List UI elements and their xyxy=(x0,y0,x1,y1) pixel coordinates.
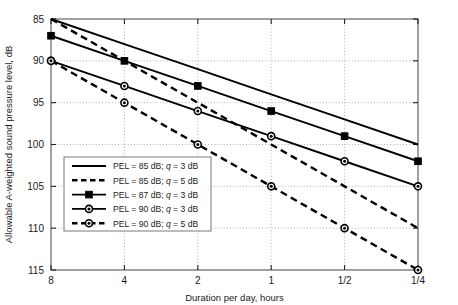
legend-label-4: PEL = 90 dB; q = 5 dB xyxy=(113,219,198,229)
chart-legend: PEL = 85 dB; q = 3 dBPEL = 85 dB; q = 5 … xyxy=(64,157,211,231)
data-point-marker-core xyxy=(88,207,91,210)
data-point-marker-square xyxy=(195,83,202,90)
y-axis-title: Allowable A-weighted sound pressure leve… xyxy=(3,46,14,244)
x-tick-label: 1 xyxy=(268,275,274,286)
data-point-marker-core xyxy=(50,59,53,62)
x-tick-label: 1/4 xyxy=(411,275,425,286)
data-point-marker-core xyxy=(417,185,420,188)
data-point-marker-square xyxy=(415,158,422,165)
data-point-marker-core xyxy=(270,185,273,188)
data-point-marker-core xyxy=(88,222,91,225)
data-point-marker-core xyxy=(123,101,126,104)
legend-label-3: PEL = 90 dB; q = 3 dB xyxy=(113,204,198,214)
y-tick-label: 100 xyxy=(27,139,44,150)
data-point-marker-square xyxy=(86,191,93,198)
x-tick-label: 8 xyxy=(48,275,54,286)
y-tick-label: 105 xyxy=(27,181,44,192)
legend-label-0: PEL = 85 dB; q = 3 dB xyxy=(113,161,198,171)
data-point-marker-square xyxy=(48,32,55,39)
x-tick-label: 1/2 xyxy=(338,275,352,286)
y-tick-label: 110 xyxy=(28,223,44,234)
y-tick-label: 85 xyxy=(33,14,45,25)
chart-svg: 859095100105110115 84211/21/4 Allowable … xyxy=(0,0,458,305)
data-point-marker-core xyxy=(196,110,199,113)
data-point-marker-core xyxy=(417,269,420,272)
chart-figure: 859095100105110115 84211/21/4 Allowable … xyxy=(0,0,458,305)
data-point-marker-square xyxy=(268,108,275,115)
legend-label-1: PEL = 85 dB; q = 5 dB xyxy=(113,176,198,186)
y-tick-label: 115 xyxy=(28,265,44,276)
data-point-marker-core xyxy=(270,135,273,138)
y-tick-label: 95 xyxy=(33,97,45,108)
data-point-marker-core xyxy=(343,227,346,230)
chart-background xyxy=(0,0,458,305)
x-axis-title: Duration per day, hours xyxy=(185,292,284,303)
legend-label-2: PEL = 87 dB; q = 3 dB xyxy=(113,190,198,200)
x-tick-label: 2 xyxy=(195,275,201,286)
data-point-marker-core xyxy=(123,84,126,87)
data-point-marker-square xyxy=(121,58,128,65)
data-point-marker-core xyxy=(196,143,199,146)
data-point-marker-square xyxy=(341,133,348,140)
data-point-marker-core xyxy=(343,160,346,163)
y-tick-label: 90 xyxy=(33,55,45,66)
x-tick-label: 4 xyxy=(122,275,128,286)
